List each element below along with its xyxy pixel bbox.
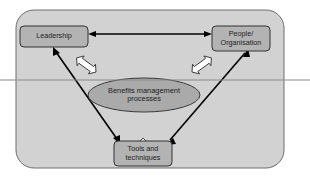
node-tools-techniques	[114, 141, 172, 166]
diagram-canvas	[0, 0, 310, 181]
benefits-management-diagram: Leadership People/ Organisation Tools an…	[0, 0, 310, 181]
node-benefits-management-processes	[88, 78, 200, 112]
node-leadership	[20, 26, 88, 47]
node-people-organisation	[212, 26, 270, 51]
